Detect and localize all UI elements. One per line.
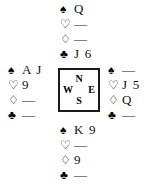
east-spades-holding: —: [121, 63, 136, 77]
north-spades-row: ♠ Q: [60, 2, 92, 16]
east-diamonds-row: ♢ Q: [108, 93, 140, 107]
compass-label-north: N: [75, 74, 82, 84]
north-hearts-holding: —: [73, 17, 88, 31]
west-hearts-row: ♡ 9: [8, 78, 43, 92]
diamond-symbol: ♢: [108, 94, 121, 106]
south-clubs-row: ♣ —: [60, 168, 97, 182]
east-diamonds-holding: Q: [121, 93, 133, 107]
north-spades-holding: Q: [73, 2, 85, 16]
hand-north: ♠ Q ♡ — ♢ — ♣ J 6: [60, 2, 92, 61]
compass-label-west: W: [63, 85, 73, 95]
spade-symbol: ♠: [8, 64, 21, 76]
hand-west: ♠ A J ♡ 9 ♢ — ♣ —: [8, 63, 43, 122]
diamond-symbol: ♢: [8, 94, 21, 106]
spade-symbol: ♠: [108, 64, 121, 76]
west-clubs-holding: —: [21, 108, 36, 122]
south-hearts-row: ♡ —: [60, 138, 97, 152]
diamond-symbol: ♢: [60, 154, 73, 166]
south-hearts-holding: —: [73, 138, 88, 152]
compass-label-south: S: [76, 96, 82, 106]
east-spades-row: ♠ —: [108, 63, 140, 77]
east-hearts-holding: J 5: [121, 78, 140, 92]
west-spades-row: ♠ A J: [8, 63, 43, 77]
north-hearts-row: ♡ —: [60, 17, 92, 31]
east-clubs-holding: —: [121, 108, 136, 122]
club-symbol: ♣: [8, 109, 21, 121]
spade-symbol: ♠: [60, 124, 73, 136]
west-diamonds-row: ♢ —: [8, 93, 43, 107]
west-hearts-holding: 9: [21, 78, 30, 92]
south-spades-row: ♠ K 9: [60, 123, 97, 137]
south-spades-holding: K 9: [73, 123, 97, 137]
south-clubs-holding: —: [73, 168, 88, 182]
west-clubs-row: ♣ —: [8, 108, 43, 122]
north-diamonds-holding: —: [73, 32, 88, 46]
heart-symbol: ♡: [108, 79, 121, 91]
spade-symbol: ♠: [60, 3, 73, 15]
heart-symbol: ♡: [60, 18, 73, 30]
compass-label-east: E: [88, 85, 95, 95]
north-clubs-row: ♣ J 6: [60, 47, 92, 61]
west-diamonds-holding: —: [21, 93, 36, 107]
bridge-hand-diagram: ♠ Q ♡ — ♢ — ♣ J 6 ♠ A J ♡ 9 ♢ — ♣: [0, 0, 153, 187]
west-spades-holding: A J: [21, 63, 43, 77]
heart-symbol: ♡: [60, 139, 73, 151]
north-clubs-holding: J 6: [73, 47, 92, 61]
east-clubs-row: ♣ —: [108, 108, 140, 122]
diamond-symbol: ♢: [60, 33, 73, 45]
club-symbol: ♣: [108, 109, 121, 121]
south-diamonds-row: ♢ 9: [60, 153, 97, 167]
heart-symbol: ♡: [8, 79, 21, 91]
hand-east: ♠ — ♡ J 5 ♢ Q ♣ —: [108, 63, 140, 122]
hand-south: ♠ K 9 ♡ — ♢ 9 ♣ —: [60, 123, 97, 182]
north-diamonds-row: ♢ —: [60, 32, 92, 46]
south-diamonds-holding: 9: [73, 153, 82, 167]
east-hearts-row: ♡ J 5: [108, 78, 140, 92]
club-symbol: ♣: [60, 48, 73, 60]
club-symbol: ♣: [60, 169, 73, 181]
compass-box: N W E S: [58, 68, 100, 112]
